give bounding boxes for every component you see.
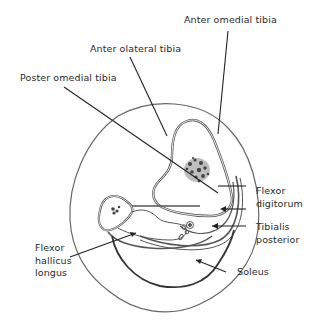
label-posteromedial-tibia: Poster omedial tibia	[20, 72, 117, 85]
label-flexor-digitorum-line2: digitorum	[256, 198, 303, 211]
label-tibialis-posterior: Tibialis posterior	[256, 221, 300, 246]
leader-anterolateral	[130, 57, 167, 136]
label-flexor-digitorum-line1: Flexor	[256, 185, 303, 198]
label-soleus: Soleus	[237, 266, 269, 279]
label-tibialis-posterior-line1: Tibialis	[256, 221, 300, 234]
leader-anteromedial	[218, 31, 228, 134]
arrow-tibialis-posterior-icon	[212, 223, 218, 229]
leg-cross-section-diagram: Anter omedial tibia Anter olateral tibia…	[0, 0, 312, 326]
label-tibialis-posterior-line2: posterior	[256, 234, 300, 247]
label-flexor-hallucis-longus: Flexor hallicus longus	[35, 242, 72, 280]
arrow-flexor-digitorum-icon	[220, 206, 226, 212]
label-anterolateral-tibia: Anter olateral tibia	[90, 43, 181, 56]
label-flexor-hallucis-line1: Flexor	[35, 242, 72, 255]
leader-flexor-hallucis	[70, 233, 136, 257]
label-flexor-hallucis-line3: longus	[35, 267, 72, 280]
arrowheads	[130, 206, 226, 264]
label-anteromedial-tibia: Anter omedial tibia	[184, 14, 277, 27]
label-flexor-digitorum: Flexor digitorum	[256, 185, 303, 210]
label-flexor-hallucis-line2: hallicus	[35, 255, 72, 268]
fibula-marrow	[111, 206, 120, 215]
leader-posteromedial	[64, 87, 218, 193]
soleus-boundary	[112, 230, 234, 287]
